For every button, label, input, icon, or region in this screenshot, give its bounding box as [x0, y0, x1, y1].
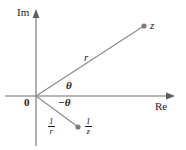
- one-over-r-denominator: r: [48, 126, 55, 136]
- radius-one-over-r-label: 1 r: [48, 117, 55, 137]
- angle-theta-label: θ: [66, 80, 72, 91]
- point-label-one-over-z: 1 z: [85, 117, 92, 137]
- one-over-z-numerator: 1: [85, 117, 92, 126]
- ray-to-z: [36, 27, 143, 97]
- imaginary-axis-label: Im: [17, 7, 29, 18]
- real-axis-arrowhead: [166, 93, 175, 100]
- origin-label: 0: [24, 97, 30, 108]
- radius-r-label: r: [84, 52, 88, 63]
- angle-negative-theta-label: −θ: [58, 97, 70, 108]
- one-over-r-numerator: 1: [48, 117, 55, 126]
- complex-plane-figure: Im Re 0 θ −θ r 1 r z 1 z: [0, 0, 186, 150]
- real-axis-label: Re: [155, 101, 167, 112]
- imaginary-axis-arrowhead: [33, 9, 40, 18]
- point-label-z: z: [150, 20, 154, 31]
- figure-canvas: [0, 0, 186, 150]
- point-marker-z: [141, 23, 146, 28]
- one-over-z-denominator: z: [85, 126, 92, 136]
- point-marker-one-over-z: [75, 124, 80, 129]
- ray-to-one-over-z: [36, 96, 78, 127]
